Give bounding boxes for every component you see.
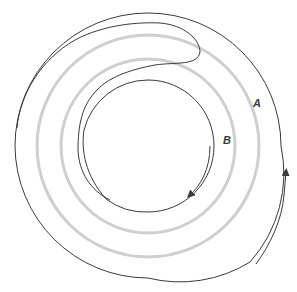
label-a: A bbox=[253, 98, 261, 109]
label-b: B bbox=[223, 135, 231, 146]
inner-guide-circle bbox=[61, 59, 235, 233]
path-a-outer-line bbox=[256, 172, 286, 264]
circular-path-diagram: A B bbox=[0, 0, 297, 292]
path-b-inner-circle bbox=[83, 80, 214, 212]
path-a-outer-circle bbox=[15, 13, 284, 282]
path-b-arrow-line bbox=[190, 146, 210, 195]
path-a-loop-line bbox=[17, 23, 200, 200]
outer-guide-circle bbox=[37, 35, 259, 257]
